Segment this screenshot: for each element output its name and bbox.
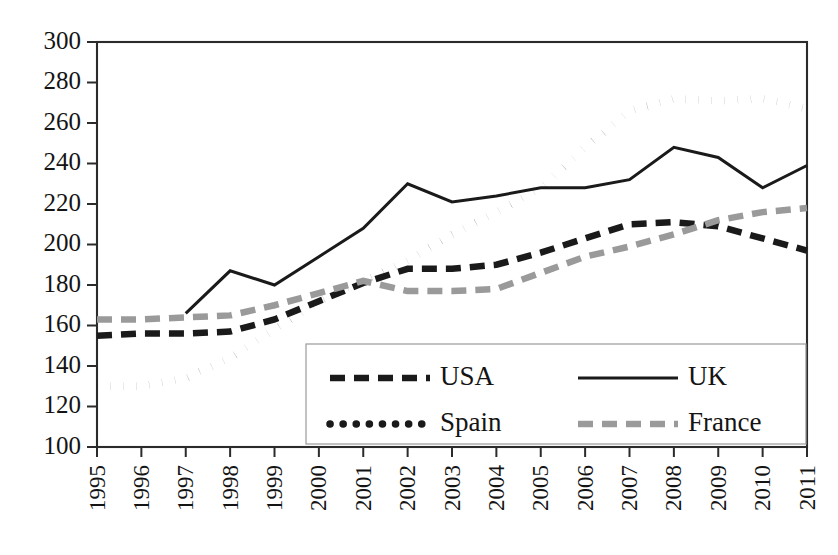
x-tick-label-2007: 2007 — [617, 465, 642, 511]
x-tick-label-2005: 2005 — [528, 465, 553, 511]
y-axis-labels: 100120140160180200220240260280300 — [44, 27, 82, 459]
y-tick-label-120: 120 — [44, 391, 82, 418]
series-line-france — [97, 208, 807, 319]
series-line-uk — [186, 147, 807, 313]
series-line-spain — [97, 99, 807, 387]
y-tick-label-280: 280 — [44, 67, 82, 94]
y-tick-label-260: 260 — [44, 108, 82, 135]
line-chart: 100120140160180200220240260280300 199519… — [0, 0, 838, 555]
x-tick-label-1999: 1999 — [262, 465, 287, 511]
x-tick-label-2000: 2000 — [306, 465, 331, 511]
x-axis-labels: 1995199619971998199920002001200220032004… — [85, 465, 820, 512]
legend-label-uk: UK — [688, 361, 727, 391]
x-tick-label-1996: 1996 — [129, 465, 154, 511]
x-tick-label-2004: 2004 — [484, 465, 509, 512]
x-axis-ticks — [97, 447, 807, 457]
x-tick-label-2006: 2006 — [573, 465, 598, 511]
x-tick-label-2011: 2011 — [795, 465, 820, 510]
x-tick-label-2008: 2008 — [661, 465, 686, 511]
legend-label-usa: USA — [440, 361, 495, 391]
x-tick-label-1998: 1998 — [218, 465, 243, 511]
y-axis-ticks — [87, 42, 97, 447]
data-series-group — [97, 99, 807, 387]
x-tick-label-2010: 2010 — [750, 465, 775, 511]
x-tick-label-1997: 1997 — [173, 465, 198, 511]
y-tick-label-200: 200 — [44, 229, 82, 256]
legend-label-france: France — [688, 407, 761, 437]
x-tick-label-2003: 2003 — [440, 465, 465, 511]
y-tick-label-300: 300 — [44, 27, 82, 54]
x-tick-label-2009: 2009 — [706, 465, 731, 511]
y-tick-label-240: 240 — [44, 148, 82, 175]
y-tick-label-180: 180 — [44, 270, 82, 297]
chart-legend: USAUKSpainFrance — [306, 344, 806, 444]
x-tick-label-1995: 1995 — [85, 465, 110, 511]
y-tick-label-160: 160 — [44, 310, 82, 337]
y-tick-label-100: 100 — [44, 432, 82, 459]
x-tick-label-2002: 2002 — [395, 465, 420, 511]
y-tick-label-220: 220 — [44, 189, 82, 216]
y-tick-label-140: 140 — [44, 351, 82, 378]
chart-container: 100120140160180200220240260280300 199519… — [0, 0, 838, 555]
x-tick-label-2001: 2001 — [351, 465, 376, 511]
legend-label-spain: Spain — [440, 407, 502, 437]
